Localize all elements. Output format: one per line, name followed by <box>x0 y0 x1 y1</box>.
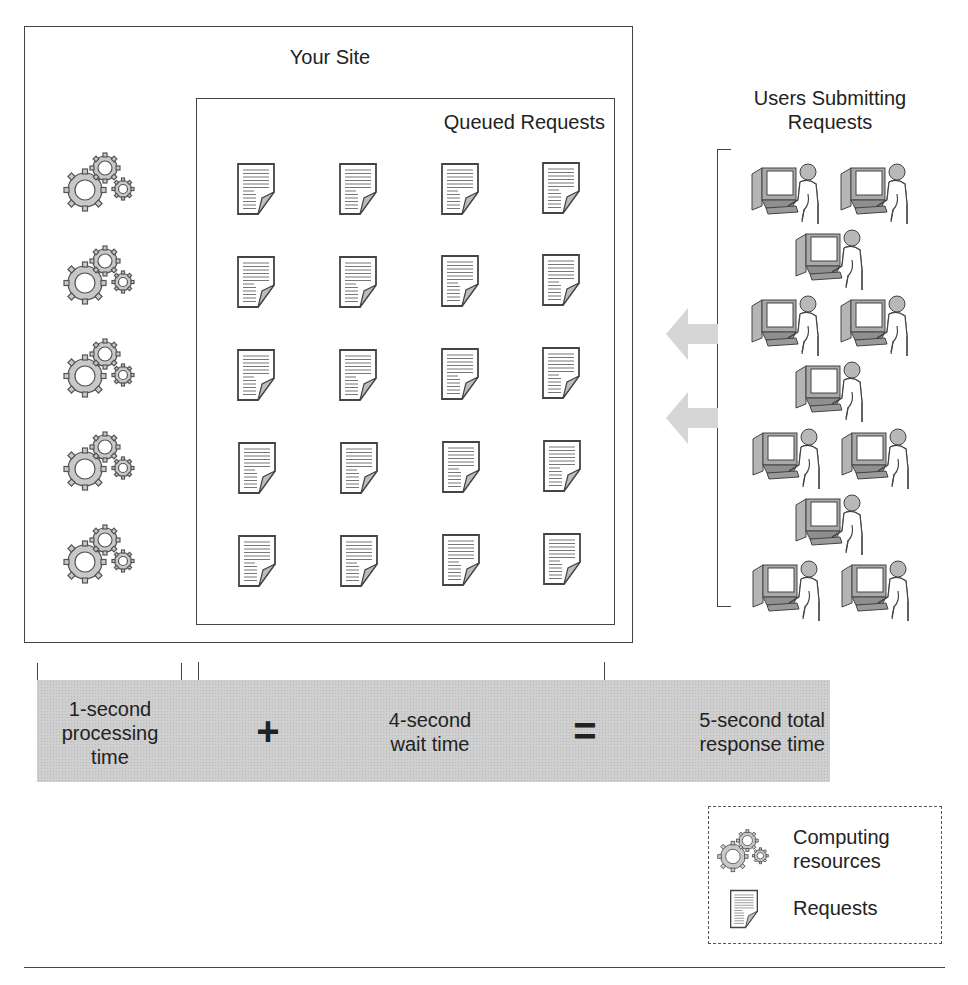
document-icon <box>440 254 480 308</box>
gears-icon <box>63 429 135 491</box>
document-icon <box>236 348 276 402</box>
document-icon <box>338 162 378 216</box>
total-line1: 5-second total <box>660 708 825 732</box>
gears-icon <box>717 827 769 873</box>
users-title-line1: Users Submitting <box>730 86 930 110</box>
document-icon <box>440 162 480 216</box>
user-at-computer-icon <box>792 358 872 424</box>
document-icon <box>440 347 480 401</box>
gears-icon <box>63 522 135 584</box>
users-bracket <box>717 149 731 607</box>
gears-icon <box>63 243 135 305</box>
wait-line1: 4-second <box>360 708 500 732</box>
document-icon <box>441 440 481 494</box>
user-at-computer-icon <box>792 226 872 292</box>
users-title-line2: Requests <box>730 110 930 134</box>
document-icon <box>236 162 276 216</box>
processing-time-label: 1-second processing time <box>40 697 180 769</box>
user-at-computer-icon <box>748 292 828 358</box>
gears-icon <box>63 336 135 398</box>
total-line2: response time <box>660 732 825 756</box>
user-at-computer-icon <box>749 557 829 623</box>
document-icon <box>339 441 379 495</box>
user-at-computer-icon <box>749 425 829 491</box>
total-response-label: 5-second total response time <box>660 708 825 756</box>
document-icon <box>338 348 378 402</box>
document-icon <box>541 253 581 307</box>
legend-computing-label: Computing resources <box>793 825 890 873</box>
user-at-computer-icon <box>837 160 917 226</box>
document-icon <box>236 255 276 309</box>
user-at-computer-icon <box>838 425 918 491</box>
document-icon <box>729 889 759 929</box>
document-icon <box>237 441 277 495</box>
processing-line1: 1-second <box>40 697 180 721</box>
document-icon <box>237 534 277 588</box>
wait-line2: wait time <box>360 732 500 756</box>
bottom-rule <box>24 967 945 968</box>
site-title: Your Site <box>230 45 430 69</box>
legend: Computing resources Requests <box>708 806 942 944</box>
processing-line2: processing <box>40 721 180 745</box>
legend-requests-label: Requests <box>793 896 878 920</box>
user-at-computer-icon <box>748 160 828 226</box>
legend-computing-line2: resources <box>793 849 890 873</box>
legend-computing-line1: Computing <box>793 825 890 849</box>
user-at-computer-icon <box>792 491 872 557</box>
document-icon <box>541 161 581 215</box>
document-icon <box>441 533 481 587</box>
document-icon <box>541 346 581 400</box>
gears-icon <box>63 150 135 212</box>
document-icon <box>542 532 582 586</box>
queue-title: Queued Requests <box>390 110 605 134</box>
wait-time-label: 4-second wait time <box>360 708 500 756</box>
document-icon <box>339 534 379 588</box>
left-arrow-icon <box>666 306 718 362</box>
processing-line3: time <box>40 745 180 769</box>
left-arrow-icon <box>666 390 718 446</box>
document-icon <box>542 439 582 493</box>
equals-sign: = <box>565 711 605 751</box>
user-at-computer-icon <box>838 557 918 623</box>
document-icon <box>338 255 378 309</box>
plus-sign: + <box>248 711 288 751</box>
user-at-computer-icon <box>837 292 917 358</box>
